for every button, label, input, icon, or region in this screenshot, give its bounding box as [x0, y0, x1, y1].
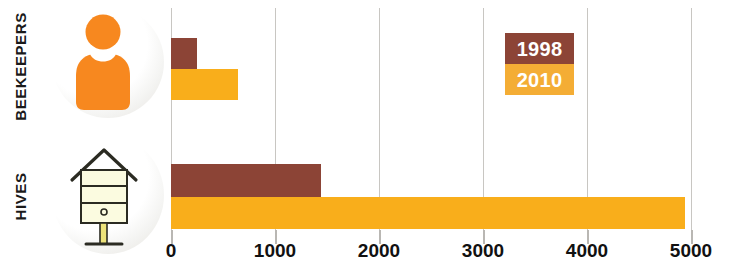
plot-area — [171, 0, 691, 236]
axis-tick-label-1000: 1000 — [254, 240, 296, 262]
gridline-5000 — [691, 8, 692, 236]
legend-item-2010: 2010 — [505, 64, 574, 95]
category-label-beekeepers: BEEKEEPERS — [12, 0, 29, 142]
bar-hives-1998 — [171, 164, 321, 197]
bar-hives-2010 — [171, 197, 685, 229]
x-axis: 0 1000 2000 3000 4000 5000 — [0, 240, 729, 266]
legend: 1998 2010 — [505, 33, 574, 95]
axis-tick-label-4000: 4000 — [566, 240, 608, 262]
legend-item-1998: 1998 — [505, 33, 574, 64]
axis-tick-label-2000: 2000 — [358, 240, 400, 262]
bar-beekeepers-2010 — [171, 69, 238, 100]
axis-tick-label-3000: 3000 — [462, 240, 504, 262]
axis-tick-label-0: 0 — [166, 240, 177, 262]
legend-label-1998: 1998 — [517, 39, 563, 59]
axis-tick-label-5000: 5000 — [670, 240, 712, 262]
bar-beekeepers-1998 — [171, 38, 197, 69]
person-icon — [70, 14, 136, 110]
beehive-icon — [66, 144, 142, 250]
legend-label-2010: 2010 — [517, 70, 563, 90]
bar-chart: BEEKEEPERS HIVES — [0, 0, 729, 266]
